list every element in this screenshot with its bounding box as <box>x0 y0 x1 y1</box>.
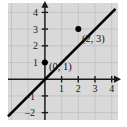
graph-figure: 4 3 2 1 –1 –2 1 2 3 4 (0, 1) (2, 3) <box>0 0 127 127</box>
y-tick-label-neg2: –2 <box>21 108 35 118</box>
x-tick-label-1: 1 <box>56 84 68 94</box>
y-tick-label-2: 2 <box>24 41 38 51</box>
point-label-0-1: (0, 1) <box>49 62 72 73</box>
data-point-0-1 <box>42 60 48 66</box>
y-tick-label-1: 1 <box>24 58 38 68</box>
y-axis-arrowhead <box>41 1 48 8</box>
x-axis-arrowhead <box>114 76 121 83</box>
point-label-2-3: (2, 3) <box>82 34 105 45</box>
data-point-2-3 <box>75 26 81 32</box>
x-tick-label-2: 2 <box>72 84 84 94</box>
x-tick-label-3: 3 <box>89 84 101 94</box>
y-tick-label-4: 4 <box>24 8 38 18</box>
x-tick-label-4: 4 <box>106 84 118 94</box>
y-tick-label-neg1: –1 <box>21 92 35 102</box>
y-tick-label-3: 3 <box>24 25 38 35</box>
